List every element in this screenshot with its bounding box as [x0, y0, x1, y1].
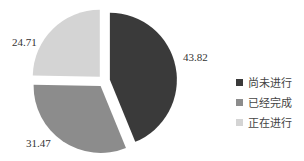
legend-label: 已经完成: [248, 94, 292, 110]
swatch-icon: [236, 119, 243, 126]
legend-label: 正在进行: [248, 114, 292, 130]
legend-item-not-started: 尚未进行: [236, 72, 292, 92]
data-label-in-progress: 24.71: [12, 36, 37, 48]
legend: 尚未进行 已经完成 正在进行: [236, 72, 292, 132]
pie-slice-0: [110, 13, 177, 142]
legend-item-completed: 已经完成: [236, 92, 292, 112]
pie-slice-2: [33, 10, 100, 77]
swatch-icon: [236, 79, 243, 86]
legend-item-in-progress: 正在进行: [236, 112, 292, 132]
legend-label: 尚未进行: [248, 74, 292, 90]
data-label-not-started: 43.82: [183, 51, 208, 63]
data-label-completed: 31.47: [26, 137, 51, 149]
swatch-icon: [236, 99, 243, 106]
